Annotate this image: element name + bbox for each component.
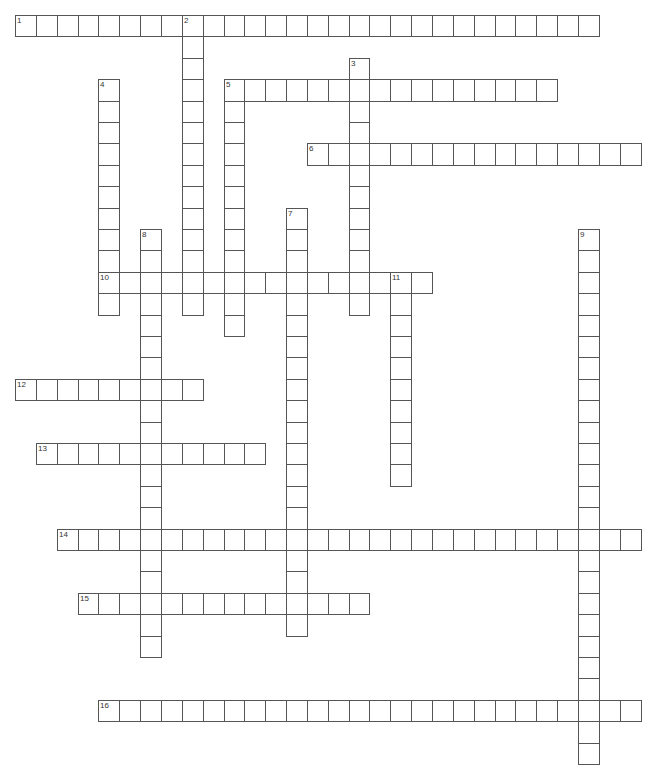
crossword-cell[interactable] <box>265 79 287 102</box>
crossword-cell[interactable] <box>140 593 162 615</box>
crossword-cell[interactable] <box>182 443 204 465</box>
crossword-cell[interactable] <box>98 15 120 37</box>
crossword-cell[interactable] <box>78 15 99 37</box>
crossword-cell[interactable] <box>244 593 266 615</box>
crossword-cell[interactable] <box>182 250 204 273</box>
crossword-cell[interactable] <box>98 379 120 401</box>
crossword-cell[interactable] <box>98 529 120 551</box>
crossword-cell[interactable] <box>536 700 558 722</box>
crossword-cell[interactable] <box>349 208 370 230</box>
crossword-cell[interactable] <box>286 79 308 102</box>
crossword-cell[interactable] <box>182 36 204 59</box>
crossword-cell[interactable] <box>286 357 308 380</box>
crossword-cell[interactable] <box>390 336 412 358</box>
crossword-cell[interactable] <box>307 529 329 551</box>
crossword-cell[interactable] <box>453 79 475 102</box>
crossword-cell[interactable] <box>140 486 162 508</box>
crossword-cell[interactable] <box>432 15 454 37</box>
crossword-cell[interactable] <box>474 700 496 722</box>
crossword-cell[interactable] <box>182 272 204 294</box>
crossword-cell[interactable] <box>265 15 287 37</box>
crossword-cell[interactable] <box>140 250 162 273</box>
crossword-cell[interactable] <box>286 379 308 401</box>
crossword-cell[interactable] <box>286 550 308 572</box>
crossword-cell[interactable] <box>578 15 600 37</box>
crossword-cell[interactable] <box>578 400 600 423</box>
crossword-cell[interactable] <box>474 529 496 551</box>
crossword-cell[interactable] <box>224 208 245 230</box>
crossword-cell[interactable] <box>411 529 433 551</box>
crossword-cell[interactable] <box>328 15 350 37</box>
crossword-cell[interactable] <box>78 379 99 401</box>
crossword-cell[interactable] <box>578 486 600 508</box>
crossword-cell[interactable] <box>203 272 225 294</box>
crossword-cell[interactable] <box>119 15 141 37</box>
crossword-cell[interactable] <box>244 15 266 37</box>
crossword-cell[interactable]: 8 <box>140 229 162 251</box>
crossword-cell[interactable] <box>182 79 204 102</box>
crossword-cell[interactable] <box>182 186 204 209</box>
crossword-cell[interactable] <box>182 593 204 615</box>
crossword-cell[interactable] <box>244 700 266 722</box>
crossword-cell[interactable] <box>349 101 370 123</box>
crossword-cell[interactable] <box>161 15 183 37</box>
crossword-cell[interactable] <box>432 529 454 551</box>
crossword-cell[interactable] <box>98 122 120 144</box>
crossword-cell[interactable] <box>390 379 412 401</box>
crossword-cell[interactable] <box>182 143 204 166</box>
crossword-cell[interactable] <box>286 486 308 508</box>
crossword-cell[interactable] <box>578 550 600 572</box>
crossword-cell[interactable] <box>390 443 412 465</box>
crossword-cell[interactable] <box>36 379 58 401</box>
crossword-cell[interactable] <box>411 15 433 37</box>
crossword-cell[interactable] <box>286 700 308 722</box>
crossword-cell[interactable] <box>390 315 412 337</box>
crossword-cell[interactable] <box>182 101 204 123</box>
crossword-cell[interactable] <box>495 700 516 722</box>
crossword-cell[interactable] <box>224 250 245 273</box>
crossword-cell[interactable] <box>224 529 245 551</box>
crossword-cell[interactable] <box>36 15 58 37</box>
crossword-cell[interactable] <box>203 15 225 37</box>
crossword-cell[interactable] <box>140 293 162 316</box>
crossword-cell[interactable] <box>536 529 558 551</box>
crossword-cell[interactable] <box>578 464 600 487</box>
crossword-cell[interactable] <box>328 143 350 166</box>
crossword-cell[interactable] <box>265 272 287 294</box>
crossword-cell[interactable] <box>119 443 141 465</box>
crossword-cell[interactable] <box>495 15 516 37</box>
crossword-cell[interactable] <box>515 79 537 102</box>
crossword-cell[interactable] <box>578 443 600 465</box>
crossword-cell[interactable] <box>224 165 245 187</box>
crossword-cell[interactable] <box>224 293 245 316</box>
crossword-cell[interactable]: 16 <box>98 700 120 722</box>
crossword-cell[interactable] <box>307 79 329 102</box>
crossword-cell[interactable] <box>57 379 79 401</box>
crossword-cell[interactable] <box>620 529 642 551</box>
crossword-cell[interactable] <box>536 143 558 166</box>
crossword-cell[interactable] <box>57 15 79 37</box>
crossword-cell[interactable] <box>432 79 454 102</box>
crossword-cell[interactable] <box>390 293 412 316</box>
crossword-cell[interactable] <box>98 101 120 123</box>
crossword-cell[interactable] <box>161 529 183 551</box>
crossword-cell[interactable] <box>578 336 600 358</box>
crossword-cell[interactable]: 6 <box>307 143 329 166</box>
crossword-cell[interactable] <box>307 272 329 294</box>
crossword-cell[interactable] <box>328 272 350 294</box>
crossword-cell[interactable] <box>349 165 370 187</box>
crossword-cell[interactable] <box>453 15 475 37</box>
crossword-cell[interactable] <box>98 593 120 615</box>
crossword-cell[interactable] <box>349 250 370 273</box>
crossword-cell[interactable] <box>286 336 308 358</box>
crossword-cell[interactable] <box>224 101 245 123</box>
crossword-cell[interactable] <box>390 529 412 551</box>
crossword-cell[interactable] <box>515 143 537 166</box>
crossword-cell[interactable] <box>390 143 412 166</box>
crossword-cell[interactable] <box>286 529 308 551</box>
crossword-cell[interactable] <box>182 165 204 187</box>
crossword-cell[interactable] <box>369 143 391 166</box>
crossword-cell[interactable] <box>599 700 621 722</box>
crossword-cell[interactable] <box>224 15 245 37</box>
crossword-cell[interactable] <box>328 529 350 551</box>
